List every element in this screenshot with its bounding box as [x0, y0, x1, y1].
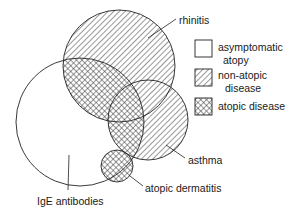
legend-label-asymptomatic-1: asymptomatic	[218, 41, 283, 53]
ige-antibodies-label: IgE antibodies	[37, 195, 104, 207]
legend-swatch-non-atopic	[195, 69, 212, 86]
venn-diagram: rhinitis asthma atopic dermatitis IgE an…	[0, 0, 297, 217]
legend-label-non-atopic-2: disease	[225, 82, 261, 94]
legend-label-asymptomatic-2: atopy	[223, 54, 249, 66]
legend-label-atopic: atopic disease	[218, 100, 285, 112]
asthma-label: asthma	[188, 154, 223, 166]
legend-swatch-atopic	[195, 98, 212, 115]
legend-label-non-atopic-1: non-atopic	[218, 69, 267, 81]
legend-swatch-asymptomatic	[195, 40, 212, 57]
atopic-dermatitis-label: atopic dermatitis	[145, 182, 221, 194]
legend: asymptomatic atopy non-atopic disease at…	[195, 40, 285, 115]
dermatitis-leader	[130, 176, 143, 186]
rhinitis-label: rhinitis	[179, 14, 209, 26]
